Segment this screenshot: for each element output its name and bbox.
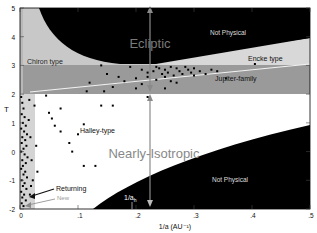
y-tick-label: 4 — [11, 34, 15, 41]
label-chiron: Chiron type — [27, 58, 63, 66]
data-point — [135, 77, 137, 79]
data-point — [181, 73, 183, 75]
data-point — [83, 123, 85, 125]
data-point — [147, 96, 149, 98]
data-point — [22, 185, 24, 187]
data-point — [29, 194, 31, 196]
data-point — [60, 108, 62, 110]
data-point — [26, 133, 28, 135]
label-ecliptic: Ecliptic — [129, 36, 171, 51]
data-point — [123, 80, 125, 82]
x-tick-label: 0 — [19, 212, 23, 219]
data-point — [129, 66, 131, 68]
data-point — [68, 142, 70, 144]
data-point — [83, 165, 85, 167]
x-tick-label: .1 — [77, 212, 83, 219]
data-point — [118, 76, 120, 78]
data-point — [164, 87, 166, 89]
data-point — [86, 90, 88, 92]
y-tick-label: 2 — [11, 91, 15, 98]
data-point — [155, 79, 157, 81]
data-point — [28, 119, 30, 121]
y-tick-label: -1 — [9, 177, 15, 184]
data-point — [20, 96, 22, 98]
data-point — [112, 105, 114, 107]
data-point — [24, 116, 26, 118]
data-point — [21, 102, 23, 104]
data-point — [161, 73, 163, 75]
label-jupiter: Jupiter-family — [215, 75, 257, 83]
data-point — [25, 188, 27, 190]
data-point — [21, 202, 23, 204]
data-point — [20, 191, 22, 193]
data-point — [45, 95, 47, 97]
y-tick-label: 5 — [11, 5, 15, 12]
data-point — [25, 162, 27, 164]
data-point — [89, 82, 91, 84]
data-point — [21, 197, 23, 199]
x-tick-label: .2 — [135, 212, 141, 219]
data-point — [187, 69, 189, 71]
data-point — [176, 67, 178, 69]
data-point — [155, 66, 157, 68]
y-tick-label: 1 — [11, 120, 15, 127]
data-point — [21, 113, 23, 115]
data-point — [173, 75, 175, 77]
data-point — [48, 112, 50, 114]
data-point — [199, 70, 201, 72]
data-point — [31, 159, 33, 161]
region-strip-top — [20, 8, 23, 94]
y-tick-label: -2 — [9, 206, 15, 213]
data-point — [164, 69, 166, 71]
data-point — [23, 108, 25, 110]
data-point — [21, 136, 23, 138]
data-point — [24, 171, 26, 173]
data-point — [103, 90, 105, 92]
data-point — [36, 171, 38, 173]
data-point — [106, 73, 108, 75]
data-point — [21, 159, 23, 161]
data-point — [20, 168, 22, 170]
label-nearly-isotropic: Nearly-Isotropic — [108, 146, 200, 161]
data-point — [23, 174, 25, 176]
data-point — [25, 145, 27, 147]
data-point — [20, 128, 22, 130]
data-point — [179, 70, 181, 72]
x-tick-label: .3 — [193, 212, 199, 219]
data-point — [54, 125, 56, 127]
label-halley: Halley-type — [80, 127, 115, 135]
data-point — [21, 142, 23, 144]
data-point — [94, 165, 96, 167]
data-point — [51, 118, 53, 120]
data-point — [24, 182, 26, 184]
y-tick-label: 3 — [11, 62, 15, 69]
data-point — [147, 76, 149, 78]
data-point — [141, 83, 143, 85]
data-point — [26, 176, 28, 178]
y-axis-title: T — [4, 105, 9, 114]
data-point — [25, 125, 27, 127]
x-tick-label: .5 — [308, 212, 314, 219]
data-point — [216, 70, 218, 72]
data-point — [210, 69, 212, 71]
data-point — [176, 82, 178, 84]
data-point — [193, 75, 195, 77]
label-not-physical-upper: Not Physical — [210, 29, 247, 37]
y-tick-label: 0 — [11, 149, 15, 156]
data-point — [254, 63, 256, 65]
data-point — [152, 70, 154, 72]
label-encke: Encke type — [248, 55, 283, 63]
data-point — [25, 199, 27, 201]
label-new: New — [57, 195, 70, 201]
data-point — [167, 72, 169, 74]
data-point — [205, 73, 207, 75]
data-point — [112, 86, 114, 88]
data-point — [147, 72, 149, 74]
label-not-physical-lower: Not Physical — [212, 176, 249, 184]
data-point — [135, 87, 137, 89]
data-point — [34, 105, 36, 107]
data-point — [141, 69, 143, 71]
data-point — [24, 139, 26, 141]
data-point — [77, 133, 79, 135]
data-point — [23, 131, 25, 133]
